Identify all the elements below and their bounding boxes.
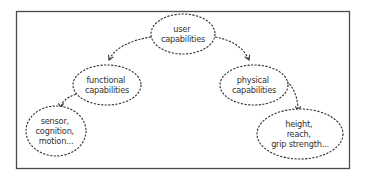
node-functional-capabilities-label: functional capabilities — [85, 75, 129, 95]
node-functional-examples: sensor, cognition, motion... — [26, 106, 86, 156]
label-line: height, — [285, 119, 312, 129]
label-line: capabilities — [232, 85, 276, 95]
label-line: capabilities — [161, 34, 205, 44]
label-line: motion... — [39, 136, 74, 146]
node-functional-examples-label: sensor, cognition, motion... — [36, 116, 77, 146]
label-line: user — [173, 24, 191, 34]
node-functional-capabilities: functional capabilities — [73, 65, 141, 105]
capabilities-diagram: user capabilities functional capabilitie… — [0, 0, 366, 179]
label-line: grip strength... — [271, 139, 329, 149]
label-line: sensor, — [41, 116, 69, 126]
node-physical-capabilities-label: physical capabilities — [232, 75, 276, 95]
label-line: capabilities — [85, 85, 129, 95]
label-line: reach, — [287, 129, 311, 139]
label-line: functional — [86, 75, 125, 85]
node-physical-examples: height, reach, grip strength... — [257, 109, 343, 159]
label-line: cognition, — [36, 126, 74, 136]
node-user-capabilities: user capabilities — [151, 14, 215, 54]
node-physical-capabilities: physical capabilities — [220, 65, 288, 105]
label-line: physical — [237, 75, 269, 85]
